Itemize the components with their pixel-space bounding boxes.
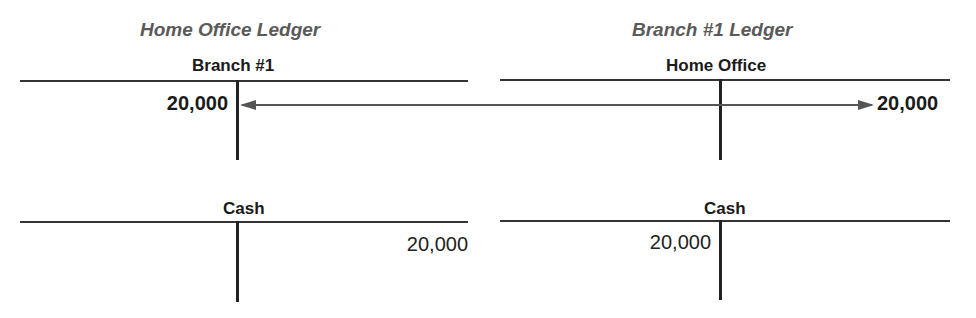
t-account-divider: [236, 221, 239, 302]
t-account-top-line: [20, 221, 468, 223]
account-title-cash: Cash: [704, 199, 746, 219]
double-arrow-icon: [0, 0, 976, 318]
credit-amount: 20,000: [407, 233, 468, 256]
t-account-top-line: [500, 220, 950, 222]
account-title-cash: Cash: [223, 199, 265, 219]
t-account-divider: [719, 220, 722, 300]
debit-amount: 20,000: [650, 231, 711, 254]
